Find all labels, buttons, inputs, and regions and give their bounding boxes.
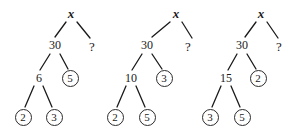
tree-edge-root-x-to-node-30 [152,22,170,37]
tree-2-root-x: x [166,5,186,21]
tree-edge-node-10-to-node-5 [136,86,145,107]
tree-edge-root-x-to-node-unknown [267,22,278,38]
factor-tree-2: x30?10325 [100,0,200,134]
tree-3-root-x: x [251,5,271,21]
tree-2-node-3: 3 [156,70,173,87]
tree-2-node-30: 30 [135,38,159,52]
tree-edge-node-30-to-node-10 [132,54,142,70]
tree-1-node-3: 3 [46,109,63,126]
tree-2-node-5: 5 [139,109,156,126]
tree-3-node-5: 5 [234,109,251,126]
tree-1-node-unknown: ? [85,39,99,54]
tree-edge-root-x-to-node-30 [55,22,66,37]
tree-edge-node-15-to-node-3 [212,86,221,107]
tree-2-node-2: 2 [107,109,124,126]
tree-1-node-6: 6 [27,71,51,85]
factor-trees-figure: x30?6523x30?10325x30?15235 [0,0,299,134]
tree-3-node-15: 15 [214,71,238,85]
tree-edge-node-30-to-node-5 [60,54,68,69]
tree-1-node-30: 30 [43,38,67,52]
factor-tree-3: x30?15235 [200,0,299,134]
tree-edge-node-30-to-node-2 [247,54,256,69]
tree-edge-node-6-to-node-2 [25,86,34,107]
tree-1-node-2: 2 [15,109,32,126]
tree-edge-root-x-to-node-unknown [182,22,192,38]
tree-edge-root-x-to-node-unknown [77,22,90,38]
tree-edge-node-10-to-node-2 [117,86,126,107]
tree-3-node-3: 3 [202,109,219,126]
tree-1-node-5: 5 [62,70,79,87]
factor-tree-1: x30?6523 [0,0,100,134]
tree-1-root-x: x [61,5,81,21]
tree-3-node-30: 30 [230,38,254,52]
tree-edge-node-30-to-node-6 [40,54,50,70]
tree-edge-node-6-to-node-3 [43,86,52,107]
tree-2-node-10: 10 [119,71,143,85]
tree-edge-root-x-to-node-30 [245,22,256,37]
tree-edge-node-30-to-node-3 [152,54,162,69]
tree-3-node-2: 2 [250,70,267,87]
tree-3-node-unknown: ? [272,39,286,54]
tree-edge-node-15-to-node-5 [231,86,240,107]
tree-edge-node-30-to-node-15 [228,54,237,70]
tree-2-node-unknown: ? [181,39,195,54]
